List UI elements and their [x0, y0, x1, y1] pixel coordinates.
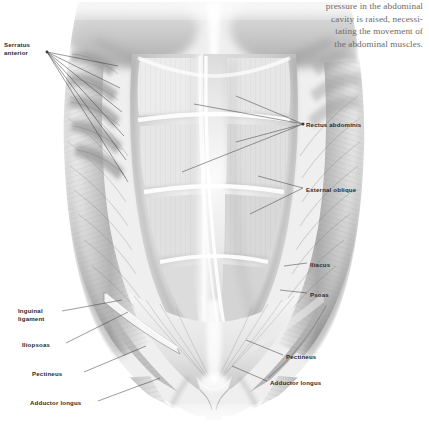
label-serratus-anterior-line2: anterior	[4, 49, 30, 57]
label-external-oblique: External oblique	[306, 186, 356, 194]
label-inguinal-ligament: Inguinal ligament	[18, 307, 45, 324]
label-adductor-longus-left: Adductor longus	[30, 399, 81, 407]
caption-line-3: tating the movement of	[271, 25, 423, 38]
label-psoas: Psoas	[310, 291, 329, 299]
torso-body	[62, 0, 366, 424]
label-inguinal-ligament-line2: ligament	[18, 315, 45, 323]
label-inguinal-ligament-line1: Inguinal	[18, 307, 45, 315]
label-adductor-longus-right: Adductor longus	[270, 379, 321, 387]
label-adductor-longus-right-line1: Adductor longus	[270, 379, 321, 387]
caption-line-2: cavity is raised, necessi-	[271, 13, 423, 26]
label-iliacus-line1: Iliacus	[310, 261, 330, 269]
anatomy-figure: pressure in the abdominal cavity is rais…	[0, 0, 429, 424]
caption-text-block: pressure in the abdominal cavity is rais…	[271, 0, 423, 50]
label-pectineus-left-line1: Pectineus	[32, 370, 62, 378]
label-pectineus-left: Pectineus	[32, 370, 62, 378]
label-serratus-anterior: Serratus anterior	[4, 41, 30, 58]
label-iliacus: Iliacus	[310, 261, 330, 269]
label-iliopsoas-line1: Iliopsoas	[22, 341, 50, 349]
caption-line-4: the abdominal muscles.	[271, 38, 423, 51]
label-pectineus-right: Pectineus	[286, 353, 316, 361]
caption-line-1: pressure in the abdominal	[271, 0, 423, 13]
label-pectineus-right-line1: Pectineus	[286, 353, 316, 361]
label-adductor-longus-left-line1: Adductor longus	[30, 399, 81, 407]
label-external-oblique-line1: External oblique	[306, 186, 356, 194]
label-rectus-abdominis-line1: Rectus abdominis	[306, 121, 361, 129]
label-psoas-line1: Psoas	[310, 291, 329, 299]
label-rectus-abdominis: Rectus abdominis	[306, 121, 361, 129]
label-serratus-anterior-line1: Serratus	[4, 41, 30, 49]
label-iliopsoas: Iliopsoas	[22, 341, 50, 349]
abdominal-muscle-illustration	[0, 0, 429, 424]
